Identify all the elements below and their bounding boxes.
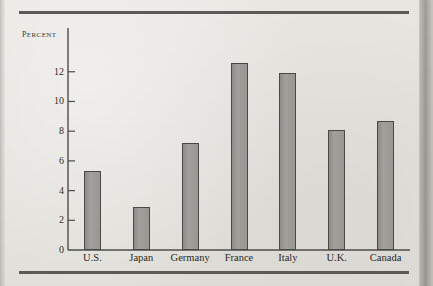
bar [279, 73, 296, 250]
chart-axes [0, 0, 433, 286]
bar [133, 207, 150, 250]
x-tick-label: U.S. [83, 252, 102, 263]
x-tick-label: Italy [278, 252, 297, 263]
x-tick-label: Germany [171, 252, 210, 263]
x-tick-label: U.K. [326, 252, 346, 263]
x-tick-label: Canada [370, 252, 402, 263]
y-tick-label: 4 [40, 186, 64, 196]
bar [84, 171, 101, 250]
x-tick-label: Japan [129, 252, 153, 263]
y-tick-label: 6 [40, 156, 64, 166]
bar [182, 143, 199, 250]
bar [231, 63, 248, 250]
bar [328, 130, 345, 250]
y-tick-label: 0 [40, 245, 64, 255]
figure-container: Percent 024681012 U.S.JapanGermanyFrance… [0, 0, 433, 286]
y-tick-label: 10 [40, 96, 64, 106]
x-tick-label: France [225, 252, 254, 263]
y-tick-label: 8 [40, 126, 64, 136]
bar-chart-plot: Percent 024681012 U.S.JapanGermanyFrance… [0, 0, 433, 286]
bar [377, 121, 394, 250]
y-tick-label: 12 [40, 67, 64, 77]
y-tick-label: 2 [40, 215, 64, 225]
